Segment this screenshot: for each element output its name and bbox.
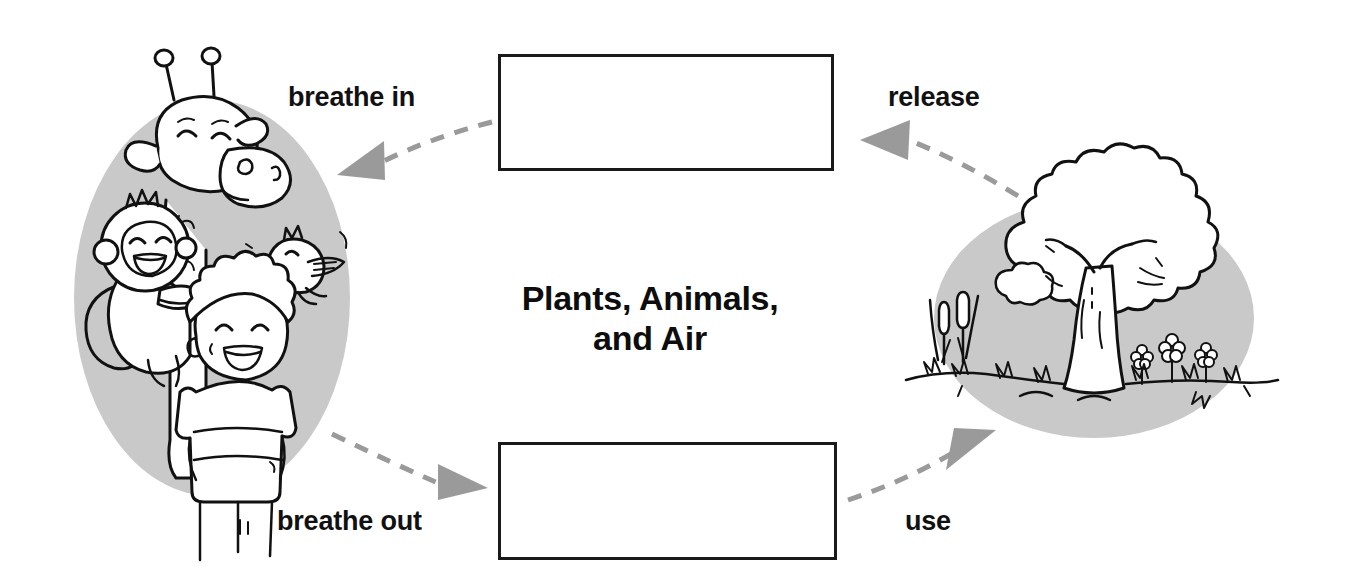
arrow-breathe-out	[332, 434, 488, 500]
arrow-release	[860, 120, 1018, 196]
arrow-breathe-in	[337, 122, 492, 180]
diagram-canvas: Plants, Animals, and Air breathe in rele…	[0, 0, 1347, 584]
arrow-layer	[0, 0, 1347, 584]
arrow-use	[848, 428, 996, 500]
